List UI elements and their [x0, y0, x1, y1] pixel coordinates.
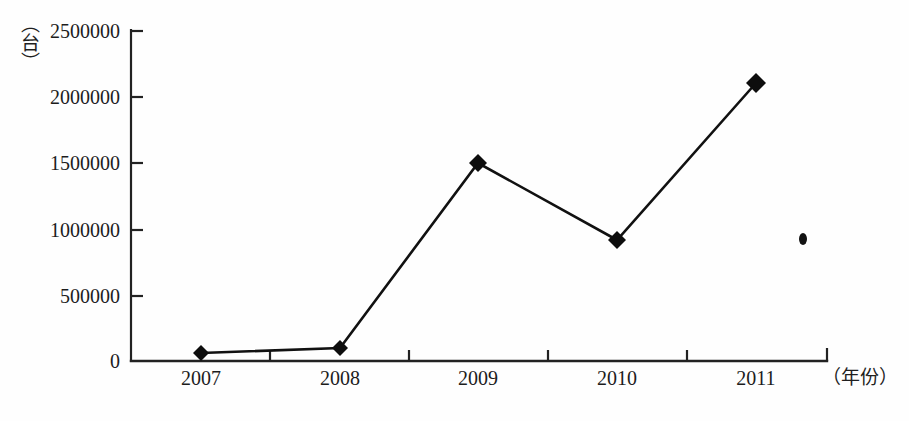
- data-point-markers: [193, 73, 766, 361]
- x-tick-label-2009: 2009: [428, 367, 528, 389]
- chart-plot-area: [0, 0, 909, 421]
- y-tick-label-0: 0: [34, 351, 120, 371]
- x-axis-ticks: [270, 348, 827, 361]
- x-tick-label-2007: 2007: [151, 367, 251, 389]
- data-series-line: [201, 83, 756, 353]
- scan-speck-artifact: [799, 233, 807, 245]
- y-tick-label-1000000: 1000000: [34, 220, 120, 240]
- x-tick-label-2010: 2010: [567, 367, 667, 389]
- y-axis-ticks: [131, 31, 143, 296]
- y-tick-label-500000: 500000: [34, 286, 120, 306]
- y-tick-label-2500000: 2500000: [34, 21, 120, 41]
- y-tick-label-2000000: 2000000: [34, 87, 120, 107]
- x-tick-label-2008: 2008: [290, 367, 390, 389]
- x-axis-unit-label: （年份）: [822, 367, 898, 389]
- line-chart: （台） 2500000 2000000 1500000 1000000 5000…: [0, 0, 909, 421]
- x-tick-label-2011: 2011: [706, 367, 806, 389]
- data-point-2007: [193, 345, 209, 361]
- y-tick-label-1500000: 1500000: [34, 153, 120, 173]
